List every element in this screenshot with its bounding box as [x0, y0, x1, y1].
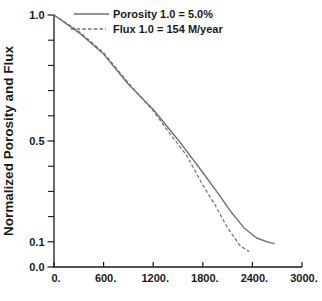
- x-tick-label: 1800.: [191, 272, 219, 284]
- x-tick-label: 0.: [51, 272, 60, 284]
- ticks-layer: 1.00.50.10.00.600.1200.1800.2400.3000.: [29, 9, 318, 284]
- x-tick-label: 3000.: [290, 272, 318, 284]
- porosity-curve: [54, 15, 275, 244]
- line-chart: 1.00.50.10.00.600.1200.1800.2400.3000. N…: [0, 0, 322, 301]
- y-axis-title: Normalized Porosity and Flux: [1, 46, 16, 236]
- legend-label-flux: Flux 1.0 = 154 M/year: [113, 23, 223, 35]
- chart-figure: 1.00.50.10.00.600.1200.1800.2400.3000. N…: [0, 0, 322, 301]
- x-tick-label: 2400.: [241, 272, 269, 284]
- x-tick-label: 600.: [95, 272, 116, 284]
- flux-curve: [54, 15, 249, 251]
- y-tick-label: 1.0: [29, 9, 44, 21]
- axes-layer: [54, 15, 302, 267]
- x-tick-label: 1200.: [141, 272, 169, 284]
- series-layer: [54, 15, 275, 251]
- legend-label-porosity: Porosity 1.0 = 5.0%: [113, 8, 213, 20]
- legend: Porosity 1.0 = 5.0% Flux 1.0 = 154 M/yea…: [71, 8, 223, 35]
- y-tick-label: 0.5: [29, 135, 44, 147]
- y-tick-label: 0.1: [29, 236, 44, 248]
- y-tick-label: 0.0: [29, 261, 44, 273]
- axis-spines: [54, 15, 302, 267]
